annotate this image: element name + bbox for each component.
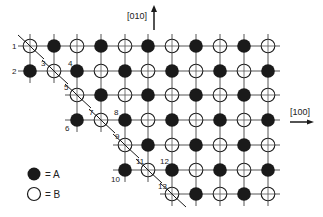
atom-a-icon <box>141 88 155 102</box>
atom-a-icon <box>237 187 251 201</box>
atom-a-icon <box>118 163 132 177</box>
atom-a-icon <box>261 163 275 177</box>
atom-a-icon <box>165 64 179 78</box>
legend-label-a: = A <box>45 169 60 180</box>
atom-a-icon <box>213 113 227 127</box>
atom-a-icon <box>141 39 155 53</box>
legend: = A = B <box>28 168 61 201</box>
atom-a-icon <box>189 187 203 201</box>
site-number-label: 6 <box>65 124 70 133</box>
site-number-label: 7 <box>89 108 94 117</box>
legend-filled-circle-icon <box>28 168 41 181</box>
atom-a-icon <box>213 64 227 78</box>
atom-a-icon <box>94 39 108 53</box>
atom-a-icon <box>70 113 84 127</box>
lattice-diagram: 12345678910111213 [010] [100] = A = B <box>0 0 323 217</box>
axis-100: [100] <box>290 107 314 125</box>
atom-a-icon <box>261 113 275 127</box>
site-number-label: 10 <box>111 175 120 184</box>
atom-a-icon <box>189 138 203 152</box>
site-number-label: 4 <box>68 59 73 68</box>
site-number-label: 3 <box>41 59 46 68</box>
atom-a-icon <box>47 39 61 53</box>
site-number-label: 2 <box>12 67 17 76</box>
axis-010: [010] <box>127 5 157 30</box>
atom-a-icon <box>165 113 179 127</box>
atom-a-icon <box>94 88 108 102</box>
axis-100-label: [100] <box>290 107 310 117</box>
atom-a-icon <box>237 138 251 152</box>
atom-a-icon <box>141 138 155 152</box>
arrowhead-up-icon <box>151 5 157 12</box>
atom-a-icon <box>213 163 227 177</box>
site-number-label: 12 <box>160 157 169 166</box>
atom-a-icon <box>261 64 275 78</box>
site-number-label: 9 <box>115 132 120 141</box>
arrowhead-right-icon <box>307 120 314 125</box>
atom-a-icon <box>118 113 132 127</box>
atom-a-icon <box>189 39 203 53</box>
site-number-label: 8 <box>114 108 119 117</box>
site-number-label: 13 <box>158 182 167 191</box>
atom-a-icon <box>237 39 251 53</box>
atom-a-icon <box>237 88 251 102</box>
site-number-label: 5 <box>64 83 69 92</box>
legend-open-circle-icon <box>28 188 41 201</box>
site-number-label: 1 <box>12 42 17 51</box>
lattice-sites <box>23 39 275 201</box>
axis-010-label: [010] <box>127 11 147 21</box>
legend-label-b: = B <box>45 189 61 200</box>
atom-a-icon <box>23 64 37 78</box>
atom-a-icon <box>118 64 132 78</box>
site-number-label: 11 <box>136 157 145 166</box>
atom-a-icon <box>189 88 203 102</box>
